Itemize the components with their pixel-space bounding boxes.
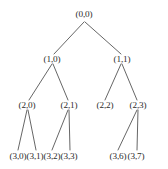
tree-node-n32: (3,2) bbox=[43, 152, 60, 161]
tree-node-n33: (3,3) bbox=[60, 152, 77, 161]
tree-edge-n10-n20 bbox=[29, 64, 52, 100]
tree-node-n00: (0,0) bbox=[75, 10, 92, 19]
tree-edge-n00-n10 bbox=[54, 22, 84, 54]
tree-node-n22: (2,2) bbox=[96, 101, 113, 110]
tree-node-n36: (3,6) bbox=[109, 152, 126, 161]
tree-node-n31: (3,1) bbox=[26, 152, 43, 161]
tree-edges-layer bbox=[0, 0, 168, 169]
tree-node-n37: (3,7) bbox=[127, 152, 144, 161]
tree-edge-n11-n23 bbox=[122, 64, 137, 100]
tree-node-n21: (2,1) bbox=[60, 101, 77, 110]
tree-diagram: (0,0)(1,0)(1,1)(2,0)(2,1)(2,2)(2,3)(3,0)… bbox=[0, 0, 168, 169]
tree-edge-n20-n31 bbox=[28, 110, 36, 150]
tree-edge-n23-n37 bbox=[137, 110, 138, 150]
tree-node-n10: (1,0) bbox=[43, 55, 60, 64]
tree-edge-n10-n21 bbox=[53, 64, 68, 100]
tree-edge-n20-n30 bbox=[18, 110, 27, 150]
tree-edge-n21-n33 bbox=[69, 110, 70, 150]
tree-node-n30: (3,0) bbox=[9, 152, 26, 161]
tree-edge-n21-n32 bbox=[52, 110, 68, 150]
tree-edge-n00-n11 bbox=[85, 22, 121, 54]
tree-edge-n23-n36 bbox=[118, 110, 137, 150]
tree-node-n23: (2,3) bbox=[129, 101, 146, 110]
tree-edge-n11-n22 bbox=[105, 64, 121, 100]
tree-node-n11: (1,1) bbox=[113, 55, 130, 64]
tree-node-n20: (2,0) bbox=[18, 101, 35, 110]
